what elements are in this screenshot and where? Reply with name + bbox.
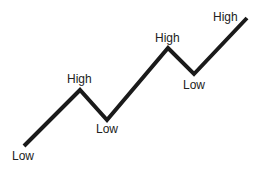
label-low-3: Low [183, 79, 205, 91]
label-low-2: Low [96, 123, 118, 135]
zigzag-trend-line [24, 18, 247, 146]
label-low-1: Low [12, 150, 34, 162]
label-high-3: High [213, 11, 238, 23]
label-high-2: High [155, 32, 180, 44]
trend-diagram [0, 0, 261, 169]
label-high-1: High [67, 73, 92, 85]
